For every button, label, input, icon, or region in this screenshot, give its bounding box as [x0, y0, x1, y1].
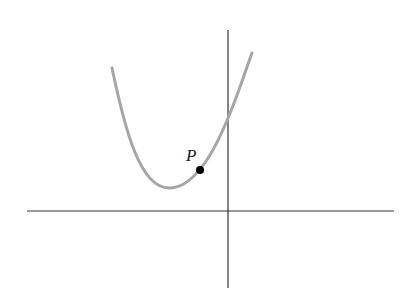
graph-svg: P	[0, 0, 403, 294]
parabola-curve	[112, 53, 252, 188]
diagram-canvas: P	[0, 0, 403, 294]
point-p-label: P	[185, 146, 196, 165]
point-p-marker	[196, 166, 204, 174]
